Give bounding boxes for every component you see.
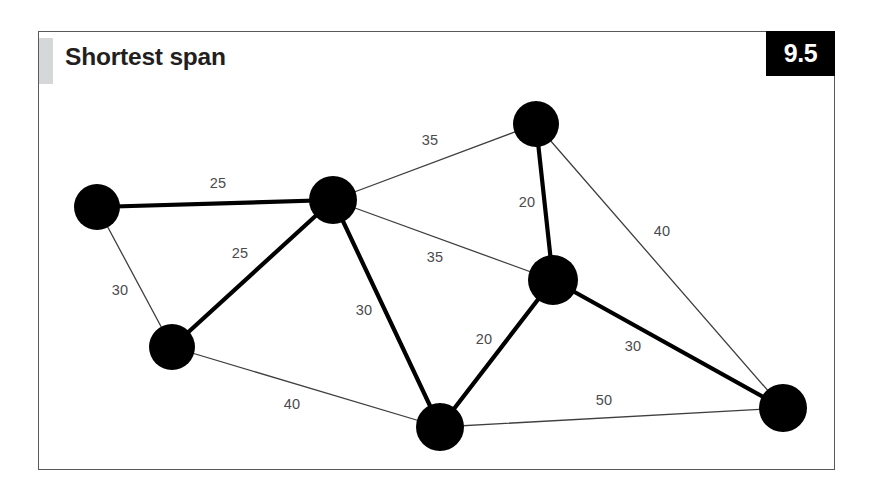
edge-weight-label: 40	[284, 396, 301, 412]
graph-edge	[97, 200, 333, 207]
graph-edge	[172, 200, 333, 347]
figure-root: Shortest span 9.5 2530253535302040203040…	[0, 0, 874, 500]
edges-layer	[97, 124, 783, 427]
edge-weight-label: 25	[232, 245, 249, 261]
edge-weight-label: 20	[519, 194, 536, 210]
graph-node	[759, 384, 807, 432]
nodes-layer	[74, 101, 807, 451]
edge-weight-label: 50	[596, 392, 613, 408]
edge-weight-label: 35	[422, 132, 439, 148]
edge-weight-label: 20	[476, 331, 493, 347]
edge-weight-label: 40	[654, 223, 671, 239]
edge-weight-label: 30	[112, 282, 129, 298]
graph-edge	[440, 280, 553, 427]
graph-node	[149, 324, 195, 370]
edge-weight-label: 30	[625, 338, 642, 354]
graph-edge	[172, 347, 440, 427]
graph-edge	[440, 408, 783, 427]
graph-node	[74, 184, 120, 230]
graph-edge	[553, 280, 783, 408]
graph-node	[513, 101, 559, 147]
edge-weight-label: 35	[427, 249, 444, 265]
graph-edge	[333, 200, 440, 427]
graph-node	[528, 255, 578, 305]
graph-node	[309, 176, 357, 224]
graph-edge	[97, 207, 172, 347]
edge-weight-label: 25	[210, 175, 227, 191]
edge-weight-label: 30	[356, 302, 373, 318]
graph-node	[416, 403, 464, 451]
